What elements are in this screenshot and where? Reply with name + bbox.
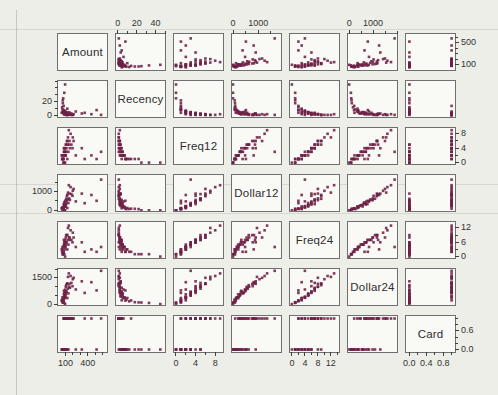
axis-tick [455, 64, 459, 65]
scatter-points [406, 34, 455, 70]
scatter-points [174, 81, 223, 117]
scatter-points [348, 316, 397, 352]
axis-tick [426, 352, 427, 356]
panel-freq12-vs-freq24 [289, 127, 340, 165]
scan-artifact-line [0, 213, 498, 214]
axis-tick [455, 330, 459, 331]
axis-tick [55, 295, 58, 296]
axis-tick [54, 191, 58, 192]
axis-tick-label: 1500 [32, 273, 52, 282]
axis-tick-label: 0.4 [420, 359, 433, 368]
axis-tick [54, 304, 58, 305]
scatter-points [174, 175, 223, 211]
diagonal-cell-recency: Recency [115, 80, 166, 118]
panel-freq12-vs-amount [57, 127, 108, 165]
panel-amount-vs-dollar24: 01000 [347, 33, 398, 71]
axis-tick [455, 59, 458, 60]
scatter-points [348, 128, 397, 164]
panel-card-vs-freq24: 04812 [289, 315, 340, 353]
axis-tick [349, 30, 350, 34]
axis-tick-label: 0.0 [461, 345, 474, 354]
scatter-points [232, 222, 281, 258]
axis-tick-label: 40 [151, 19, 161, 28]
scatter-points [232, 128, 281, 164]
axis-tick-label: 0 [173, 359, 178, 368]
axis-tick-label: 0 [47, 300, 52, 309]
scan-artifact-ruled-line [16, 10, 17, 395]
axis-tick-label: 0 [47, 111, 52, 120]
panel-dollar12-vs-amount: 01000 [57, 174, 108, 212]
axis-tick [165, 31, 166, 34]
axis-tick [324, 352, 325, 355]
axis-tick [455, 148, 459, 149]
axis-tick [455, 242, 459, 243]
axis-tick [195, 352, 196, 356]
scatter-points [406, 269, 455, 305]
axis-tick [258, 30, 259, 34]
axis-tick [55, 269, 58, 270]
axis-tick [127, 31, 128, 34]
scatter-points [116, 269, 165, 305]
variable-label-recency: Recency [117, 93, 163, 105]
scatter-points [116, 175, 165, 211]
axis-tick-label: 20 [42, 97, 52, 106]
axis-tick [65, 352, 66, 356]
axis-tick [155, 30, 156, 34]
axis-tick [455, 155, 458, 156]
scatter-points [58, 316, 107, 352]
axis-tick [455, 343, 458, 344]
panel-freq24-vs-amount [57, 221, 108, 259]
variable-label-dollar24: Dollar24 [350, 281, 394, 293]
panel-dollar12-vs-freq24 [289, 174, 340, 212]
axis-tick-label: 0.0 [403, 359, 416, 368]
panel-freq24-vs-recency [115, 221, 166, 259]
scatter-points [290, 175, 339, 211]
axis-tick-label: 0.8 [437, 359, 450, 368]
axis-tick [417, 352, 418, 355]
axis-tick [233, 30, 234, 34]
panel-card-vs-dollar12 [231, 315, 282, 353]
panel-recency-vs-card [405, 80, 456, 118]
axis-tick [102, 352, 103, 355]
panel-amount-vs-recency: 02040 [115, 33, 166, 71]
scatter-points [116, 128, 165, 164]
scatter-points [232, 34, 281, 70]
scatter-points [174, 316, 223, 352]
panel-dollar12-vs-dollar24 [347, 174, 398, 212]
scatter-points [232, 81, 281, 117]
axis-tick [455, 42, 459, 43]
axis-tick [298, 352, 299, 355]
scatter-points [290, 34, 339, 70]
panel-recency-vs-amount: 020 [57, 80, 108, 118]
axis-tick [304, 352, 305, 356]
axis-tick [455, 249, 458, 250]
panel-amount-vs-freq24 [289, 33, 340, 71]
axis-tick [245, 31, 246, 34]
axis-tick [55, 87, 58, 88]
axis-tick-label: 0 [115, 19, 120, 28]
axis-tick [80, 352, 81, 355]
axis-tick [55, 108, 58, 109]
panel-freq12-vs-dollar12 [231, 127, 282, 165]
scatter-points [58, 128, 107, 164]
axis-tick [455, 324, 458, 325]
axis-tick [291, 352, 292, 356]
scatter-points [348, 81, 397, 117]
axis-tick [385, 31, 386, 34]
axis-tick-label: 1000 [363, 19, 383, 28]
axis-tick [443, 352, 444, 356]
axis-tick [87, 352, 88, 356]
panel-dollar24-vs-card [405, 268, 456, 306]
panel-card-vs-freq12: 048 [173, 315, 224, 353]
scatterplot-matrix: Amount020400100001000100500020RecencyFre… [0, 0, 498, 395]
panel-amount-vs-card: 100500 [405, 33, 456, 71]
diagonal-cell-card: Card0.00.40.80.00.6 [405, 315, 456, 353]
axis-tick [311, 352, 312, 355]
panel-dollar24-vs-amount: 01500 [57, 268, 108, 306]
axis-tick [55, 286, 58, 287]
axis-tick [54, 210, 58, 211]
scatter-points [348, 34, 397, 70]
axis-tick [455, 256, 459, 257]
scatter-points [116, 316, 165, 352]
axis-tick-label: 1000 [248, 19, 268, 28]
